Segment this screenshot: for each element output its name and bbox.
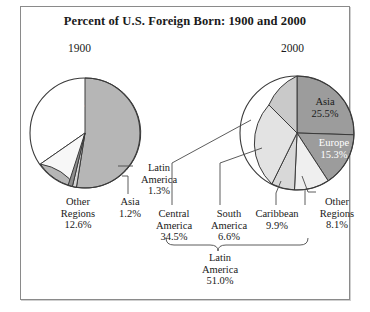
slice-label-2000-caribbean-value: 9.9% (266, 220, 288, 231)
slice-label-2000-other-regions-value: 8.1% (326, 219, 348, 230)
slice-label-1900-latin-america-name2: America (141, 174, 177, 185)
slice-label-2000-south-america-name1: South (217, 208, 242, 219)
slice-label-1900-europe-value: 84.9% (55, 112, 82, 123)
chart-figure: Percent of U.S. Foreign Born: 1900 and 2… (0, 0, 370, 312)
slice-label-2000-asia-value: 25.5% (311, 108, 338, 119)
slice-label-1900-other-regions: Other Regions 12.6% (50, 196, 106, 231)
slice-label-2000-europe-value: 15.3% (320, 149, 347, 160)
slice-label-1900-asia-value: 1.2% (119, 208, 141, 219)
group-label-2000-latin-america-value: 51.0% (206, 275, 233, 286)
slice-label-2000-asia-name: Asia (315, 96, 334, 107)
leader-line-1900-asia (122, 176, 128, 194)
pie-1900 (30, 78, 141, 188)
slice-label-2000-europe: Europe 15.3% (306, 137, 362, 160)
group-label-2000-latin-america-name1: Latin (209, 252, 231, 263)
slice-label-2000-asia: Asia 25.5% (300, 96, 350, 119)
pie-2000 (240, 76, 354, 190)
slice-label-2000-caribbean-name: Caribbean (255, 208, 298, 219)
slice-label-1900-latin-america-value: 1.3% (148, 185, 170, 196)
slice-label-2000-central-america: Central America 34.5% (146, 208, 202, 243)
slice-label-2000-central-america-value: 34.5% (160, 231, 187, 242)
slice-label-1900-latin-america-name1: Latin (148, 162, 170, 173)
slice-label-2000-other-regions-name1: Other (325, 196, 349, 207)
slice-label-1900-other-regions-value: 12.6% (64, 219, 91, 230)
slice-label-2000-other-regions: Other Regions 8.1% (311, 196, 363, 231)
slice-label-2000-other-regions-name2: Regions (320, 208, 354, 219)
group-label-2000-latin-america-name2: America (202, 264, 238, 275)
slice-label-2000-caribbean: Caribbean 9.9% (248, 208, 306, 231)
slice-label-2000-south-america-value: 6.6% (218, 231, 240, 242)
slice-label-1900-europe-name: Europe (54, 100, 84, 111)
slice-label-1900-asia-name: Asia (120, 196, 139, 207)
slice-label-1900-europe: Europe 84.9% (36, 100, 102, 123)
slice-label-2000-south-america-name2: America (211, 220, 247, 231)
slice-1900-europe[interactable] (40, 78, 140, 188)
slice-label-2000-central-america-name1: Central (159, 208, 190, 219)
group-label-2000-latin-america: Latin America 51.0% (188, 252, 252, 287)
slice-label-2000-central-america-name2: America (156, 220, 192, 231)
slice-label-1900-other-regions-name2: Regions (61, 208, 95, 219)
slice-label-1900-latin-america: Latin America 1.3% (130, 162, 188, 197)
slice-label-1900-other-regions-name1: Other (66, 196, 90, 207)
slice-label-2000-europe-name: Europe (319, 137, 349, 148)
